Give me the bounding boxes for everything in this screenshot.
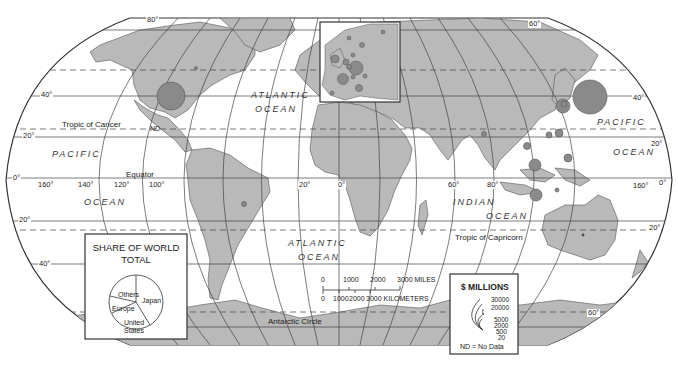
bubble-india (482, 132, 487, 137)
lon-label-20w: 20° (298, 181, 311, 189)
antarctic-circle-label: Antarctic Circle (268, 318, 322, 326)
share-legend: SHARE OF WORLD TOTAL Japan United States… (85, 234, 187, 339)
bubble-spain (330, 91, 334, 95)
lat-label-60s-right: 60° (587, 309, 600, 317)
lat-label-20n-left: 20° (22, 132, 35, 140)
size-legend-value-20: 20 (498, 334, 505, 341)
ocean-label-atlantic-north-2: OCEAN (255, 105, 297, 114)
lon-label-140w: 140° (77, 181, 95, 189)
lon-label-160w: 160° (37, 181, 55, 189)
scale-km-1000: 1000 (333, 295, 349, 302)
size-legend-note: ND = No Data (460, 343, 504, 350)
ocean-label-indian-1: INDIAN (453, 198, 496, 207)
bubble-indonesia (530, 189, 542, 201)
pie-label-others: Others (118, 291, 139, 299)
lon-label-160e: 160° (632, 182, 650, 190)
ocean-label-pacific-west-1: PACIFIC (52, 150, 101, 159)
lat-label-0-left: 0° (12, 174, 21, 182)
bubble-austria (363, 74, 367, 78)
bubble-belgium (347, 65, 352, 70)
bubble-hong-kong (546, 132, 552, 138)
size-legend-title: $ MILLIONS (461, 282, 509, 292)
no-data-label: ND (150, 125, 160, 132)
equator-label: Equator (126, 171, 154, 179)
pie-label-europe: Europe (112, 305, 135, 313)
scale-miles-1000: 1000 (343, 276, 359, 283)
lon-label-100w: 100° (148, 181, 166, 189)
scale-miles-0: 0 (321, 276, 325, 283)
share-legend-title-1: SHARE OF WORLD (85, 242, 187, 254)
bubble-netherlands (343, 59, 349, 65)
bubble-denmark (351, 53, 355, 57)
lat-label-20s-right: 20° (648, 224, 661, 232)
size-legend-value-20000: 20000 (491, 304, 509, 311)
bubble-singapore (555, 188, 559, 192)
bubble-china (561, 101, 567, 107)
bubble-brazil (242, 202, 247, 207)
pie-label-japan: Japan (142, 297, 161, 305)
bubble-malaysia (529, 159, 541, 171)
size-legend-value-30000: 30000 (491, 296, 509, 303)
bubble-philippines (564, 154, 572, 162)
bubble-united-states (157, 82, 185, 110)
tropic-of-cancer-label: Tropic of Cancer (62, 121, 121, 129)
bubble-thailand (524, 143, 531, 150)
scale-km-2000: 2000 (349, 295, 365, 302)
lon-label-60e: 60° (447, 181, 460, 189)
lat-label-20n-right: 20° (650, 140, 663, 148)
bubble-taiwan (555, 129, 563, 137)
size-legend: $ MILLIONS 30000 20000 5000 2000 500 20 … (450, 274, 518, 354)
scale-km-3000: 3000 KILOMETERS (366, 295, 429, 302)
lon-label-80e: 80° (486, 181, 499, 189)
bubble-switzerland (351, 75, 355, 79)
bubble-finland (381, 30, 385, 34)
bubble-france (338, 74, 349, 85)
lat-label-80n: 80° (146, 16, 159, 24)
lat-label-0-right: 0° (658, 179, 667, 187)
share-legend-title-2: TOTAL (85, 254, 187, 266)
ocean-label-atlantic-south-1: ATLANTIC (288, 239, 347, 248)
pie-label-united-states: United States (121, 319, 147, 335)
bubble-norway (347, 36, 351, 40)
bubble-australia (582, 234, 584, 236)
europe-inset (320, 22, 400, 102)
lat-label-40n-left: 40° (40, 91, 53, 99)
ocean-label-atlantic-south-2: OCEAN (298, 253, 340, 262)
lat-label-60n: 60° (528, 20, 541, 28)
scale-km-0: 0 (321, 295, 325, 302)
bubble-canada (195, 67, 198, 70)
ocean-label-indian-2: OCEAN (486, 212, 528, 221)
scale-miles-2000: 2000 (370, 276, 386, 283)
scale-miles-3000: 3000 MILES (397, 276, 436, 283)
lat-label-40n-right: 40° (632, 94, 645, 102)
lon-label-120w: 120° (113, 181, 131, 189)
ocean-label-pacific-east-1: PACIFIC (597, 118, 646, 127)
lat-label-20s-left: 20° (18, 216, 31, 224)
ocean-label-atlantic-north-1: ATLANTIC (251, 91, 310, 100)
lon-label-0: 0° (337, 181, 346, 189)
bubble-sweden (360, 43, 365, 48)
ocean-label-pacific-west-2: OCEAN (84, 198, 126, 207)
ocean-label-pacific-east-2: OCEAN (613, 148, 655, 157)
tropic-of-capricorn-label: Tropic of Capricorn (455, 234, 523, 242)
lat-label-40s-left: 40° (38, 260, 51, 268)
bubble-italy (356, 85, 363, 92)
bubble-japan (573, 80, 607, 114)
bubble-uk (331, 55, 339, 63)
